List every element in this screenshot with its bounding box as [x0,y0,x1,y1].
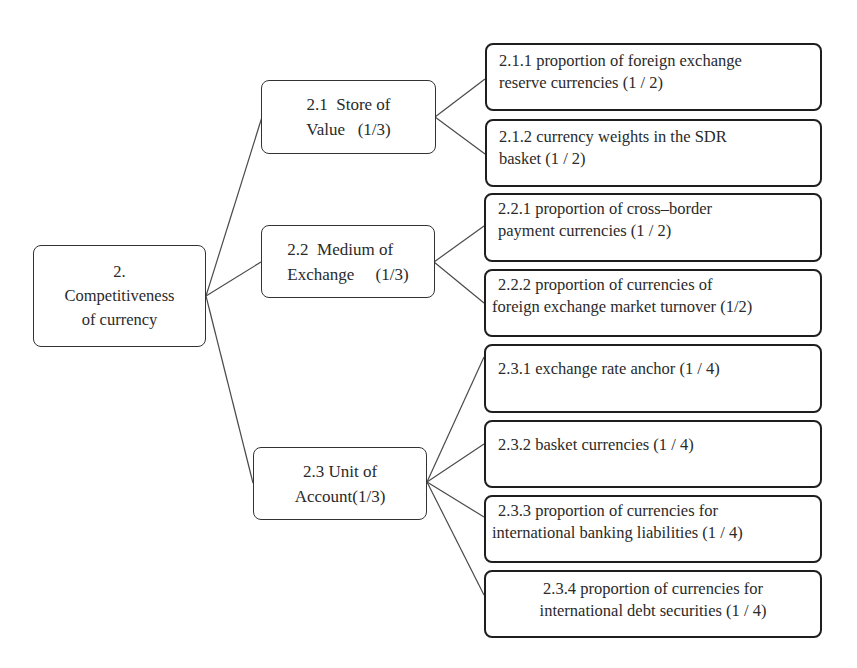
link-2-2-to-2-2-2 [434,262,484,303]
leaf-2-3-4-line-2: international debt securities (1 / 4) [492,600,814,622]
node-store-of-value: 2.1 Store of Value (1/3) [261,80,436,154]
node-store-of-value-line-2: Value (1/3) [306,117,391,142]
leaf-2-1-2-sdr-basket-weights: 2.1.2 currency weights in the SDR basket… [485,119,822,187]
leaf-2-2-1-cross-border-payment: 2.2.1 proportion of cross–border payment… [484,193,822,262]
link-2-2-to-2-2-1 [434,226,484,262]
node-unit-of-account: 2.3 Unit of Account(1/3) [253,447,427,520]
leaf-2-2-1-line-2: payment currencies (1 / 2) [498,220,812,242]
leaf-2-3-3-line-1: 2.3.3 proportion of currencies for [492,500,812,522]
node-unit-of-account-line-2: Account(1/3) [295,484,386,509]
leaf-2-3-2-line-1: 2.3.2 basket currencies (1 / 4) [498,434,812,456]
leaf-2-3-3-banking-liabilities: 2.3.3 proportion of currencies for inter… [484,495,822,563]
leaf-2-3-2-basket-currencies: 2.3.2 basket currencies (1 / 4) [484,420,822,488]
leaf-2-3-4-debt-securities: 2.3.4 proportion of currencies for inter… [484,570,822,638]
leaf-2-1-2-line-2: basket (1 / 2) [499,148,812,170]
leaf-2-1-1-line-2: reserve currencies (1 / 2) [499,72,812,94]
root-line-1: 2. [65,260,175,284]
link-2-1-to-2-1-2 [435,117,485,154]
leaf-2-3-4-line-1: 2.3.4 proportion of currencies for [492,578,814,600]
link-2-1-to-2-1-1 [435,79,485,117]
leaf-2-3-1-line-1: 2.3.1 exchange rate anchor (1 / 4) [498,358,812,380]
leaf-2-1-1-foreign-exchange-reserve: 2.1.1 proportion of foreign exchange res… [485,43,822,111]
node-medium-of-exchange: 2.2 Medium of Exchange (1/3) [261,225,435,298]
root-node-competitiveness-of-currency: 2. Competitiveness of currency [33,245,206,347]
leaf-2-1-2-line-1: 2.1.2 currency weights in the SDR [499,126,812,148]
link-root-2-2 [206,262,261,296]
link-root-2-3 [206,296,253,483]
leaf-2-3-1-exchange-rate-anchor: 2.3.1 exchange rate anchor (1 / 4) [484,344,822,413]
root-line-3: of currency [65,308,175,332]
node-store-of-value-line-1: 2.1 Store of [306,92,391,117]
leaf-2-3-3-line-2: international banking liabilities (1 / 4… [492,522,812,544]
leaf-2-2-2-line-2: foreign exchange market turnover (1/2) [492,296,812,318]
node-medium-of-exchange-line-2: Exchange (1/3) [287,262,408,287]
node-unit-of-account-line-1: 2.3 Unit of [295,459,386,484]
leaf-2-2-1-line-1: 2.2.1 proportion of cross–border [498,198,812,220]
leaf-2-2-2-fx-market-turnover: 2.2.2 proportion of currencies of foreig… [484,269,822,337]
leaf-2-2-2-line-1: 2.2.2 proportion of currencies of [492,274,812,296]
link-root-2-1 [206,117,262,296]
leaf-2-1-1-line-1: 2.1.1 proportion of foreign exchange [499,50,812,72]
node-medium-of-exchange-line-1: 2.2 Medium of [287,237,408,262]
root-line-2: Competitiveness [65,284,175,308]
